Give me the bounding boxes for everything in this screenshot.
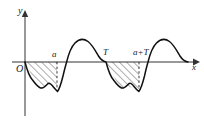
figure-canvas bbox=[0, 0, 204, 122]
tick-label-a: a bbox=[52, 50, 57, 59]
figure-periodic-integral: y O a T a+T x bbox=[0, 0, 204, 122]
origin-label: O bbox=[16, 64, 23, 74]
tick-label-a-plus-T: a+T bbox=[133, 48, 149, 57]
tick-label-T: T bbox=[103, 48, 108, 57]
y-axis-label: y bbox=[18, 6, 22, 16]
x-axis-label: x bbox=[192, 63, 196, 72]
y-axis-arrow bbox=[22, 10, 28, 17]
